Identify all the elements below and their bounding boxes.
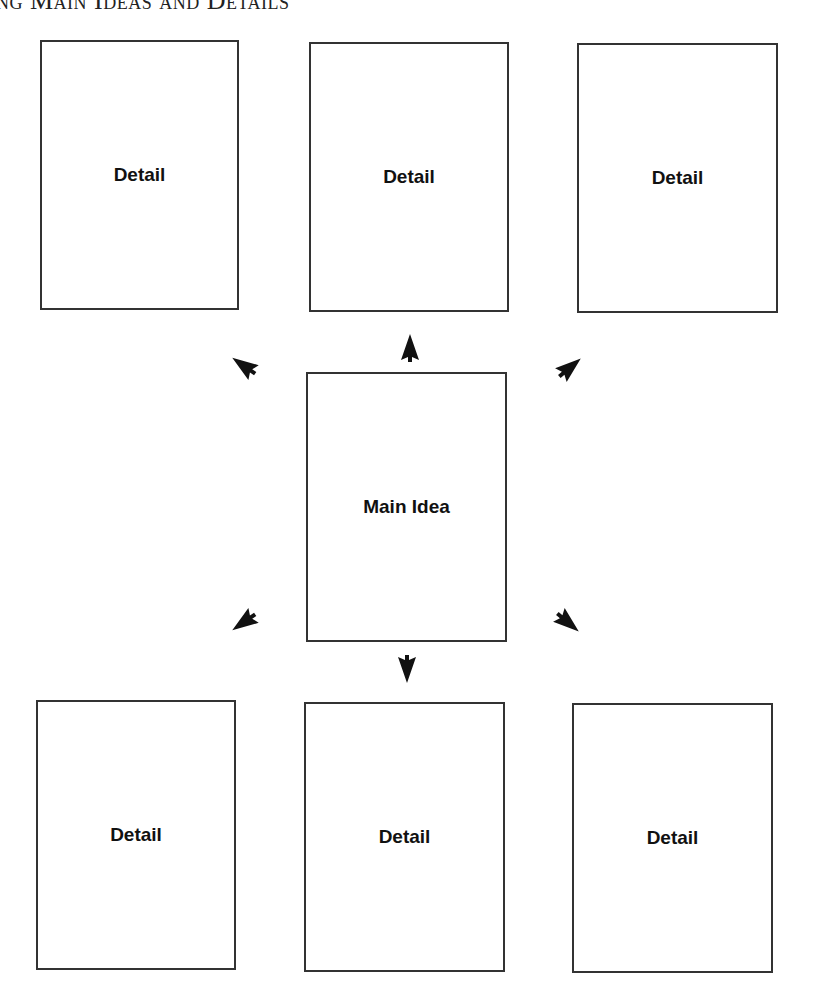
arrow-up-left-icon bbox=[227, 350, 260, 381]
arrows-layer bbox=[0, 0, 815, 1006]
arrow-down-left-icon bbox=[227, 607, 260, 638]
arrow-up-right-icon bbox=[554, 352, 587, 384]
arrow-down-icon bbox=[398, 655, 416, 683]
arrow-down-right-icon bbox=[552, 607, 585, 639]
arrow-up-icon bbox=[401, 334, 419, 362]
